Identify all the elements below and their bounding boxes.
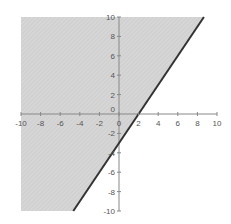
x-tick-label: 4 [156, 119, 161, 128]
x-tick-label: 6 [176, 119, 181, 128]
x-tick-label: 2 [136, 119, 141, 128]
x-tick-label: 8 [195, 119, 200, 128]
x-tick-label: -10 [15, 119, 27, 128]
y-tick-label: -8 [108, 188, 116, 197]
x-tick-label: -8 [37, 119, 45, 128]
y-tick-label: 8 [111, 32, 116, 41]
y-tick-label: 10 [106, 13, 115, 22]
x-tick-label: 0 [117, 119, 122, 128]
y-tick-label: -10 [103, 207, 115, 216]
y-tick-label: -4 [108, 149, 116, 158]
y-tick-label: 4 [111, 71, 116, 80]
x-tick-label: 10 [213, 119, 222, 128]
y-tick-label: 2 [111, 91, 116, 100]
y-tick-label: 0 [111, 105, 116, 114]
x-tick-label: -6 [57, 119, 65, 128]
y-tick-label: 6 [111, 52, 116, 61]
x-tick-label: -2 [96, 119, 104, 128]
y-tick-label: -6 [108, 168, 116, 177]
x-tick-label: -4 [76, 119, 84, 128]
y-tick-label: -2 [108, 129, 116, 138]
inequality-plot: -10-8-6-4-20246810 108642-2-4-6-8-100 [0, 0, 231, 224]
